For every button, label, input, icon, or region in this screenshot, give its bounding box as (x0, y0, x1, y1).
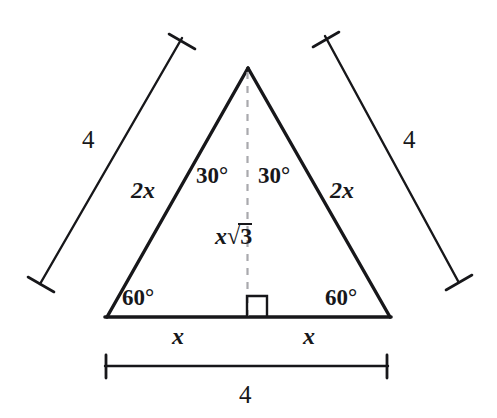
triangle-left-side (107, 68, 248, 317)
bracket-right-shaft (325, 36, 458, 281)
bracket-left-label: 4 (82, 127, 95, 152)
bracket-left-tick-top (169, 34, 195, 49)
bracket-right (313, 32, 472, 290)
radical-index: 3 (240, 223, 252, 249)
altitude-label: x√3 (215, 222, 252, 248)
angle-label-top-right: 30° (258, 164, 290, 187)
side-label-right: 2x (330, 178, 354, 202)
altitude-label-variable: x (215, 223, 227, 249)
bracket-right-label: 4 (403, 127, 416, 152)
square-root-icon: √3 (227, 222, 252, 248)
bracket-bottom-label: 4 (239, 382, 252, 407)
geometry-diagram: 30° 30° 60° 60° 2x 2x x√3 x x 4 4 4 (0, 0, 497, 418)
base-label-left-half: x (172, 324, 184, 348)
bracket-right-tick-bottom (446, 275, 472, 290)
bracket-left-tick-bottom (28, 277, 54, 292)
side-label-left: 2x (131, 178, 155, 202)
bracket-bottom (105, 355, 388, 378)
bracket-left-shaft (40, 38, 182, 284)
triangle-right-side (248, 68, 390, 317)
bracket-right-tick-top (313, 32, 339, 47)
angle-label-base-right: 60° (325, 286, 357, 309)
radical-bar (238, 223, 252, 225)
angle-label-top-left: 30° (196, 164, 228, 187)
angle-label-base-left: 60° (122, 286, 154, 309)
base-label-right-half: x (303, 324, 315, 348)
bracket-left (28, 34, 195, 292)
right-angle-marker (247, 296, 267, 316)
diagram-canvas (0, 0, 497, 418)
